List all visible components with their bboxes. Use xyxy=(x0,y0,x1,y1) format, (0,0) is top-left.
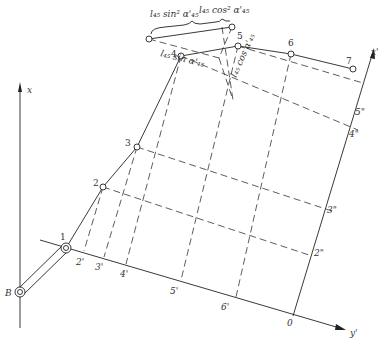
diagram-canvas: x y' x' B 1 2 3 4 5 6 7 2' 3' 4' 5' 6' 0… xyxy=(0,0,386,349)
point-1-label: 1 xyxy=(60,232,66,242)
x-prime-axis xyxy=(293,55,372,316)
formula-sin-squared: l₄₅ sin² α'₄₅ xyxy=(150,9,199,19)
point-3-label: 3 xyxy=(125,138,131,148)
y-prime-axis xyxy=(40,240,343,329)
label-4-prime: 4' xyxy=(119,269,128,279)
point-7-label: 7 xyxy=(346,56,352,66)
point-6 xyxy=(288,51,294,57)
formula-cos: l₄₅ cos α'₄₅ xyxy=(229,32,257,79)
origin-label: 0 xyxy=(287,318,293,328)
construction-left-point xyxy=(146,36,152,42)
y-prime-arrow-icon xyxy=(335,324,346,330)
point-7 xyxy=(350,66,356,72)
label-4-double-prime: 4" xyxy=(348,129,359,139)
formula-sin: l₄₅ sin α'₄₅ xyxy=(160,48,206,69)
point-6-label: 6 xyxy=(288,38,294,48)
mechanism-polyline xyxy=(66,46,353,248)
construction-right-point xyxy=(229,24,235,30)
label-3-prime: 3' xyxy=(95,262,103,272)
label-5-double-prime: 5" xyxy=(355,107,365,117)
point-3 xyxy=(134,144,140,150)
label-3-double-prime: 3" xyxy=(327,205,337,215)
label-6-prime: 6' xyxy=(221,302,229,312)
point-2-label: 2 xyxy=(93,178,99,188)
y-prime-label: y' xyxy=(349,328,358,338)
x-axis-arrow-icon xyxy=(18,82,22,92)
label-2-double-prime: 2" xyxy=(313,248,324,258)
point-b-label: B xyxy=(4,288,12,298)
formula-cos-squared: l₄₅ cos² α'₄₅ xyxy=(199,5,250,15)
point-2 xyxy=(100,184,106,190)
label-2-prime: 2' xyxy=(75,257,84,267)
label-5-prime: 5' xyxy=(170,286,178,296)
point-1 xyxy=(64,246,69,251)
x-axis-label: x xyxy=(27,85,32,95)
point-5-label: 5 xyxy=(237,31,243,41)
point-b-inner xyxy=(18,290,23,295)
x-prime-label: x' xyxy=(371,47,379,57)
construction-segment xyxy=(149,27,232,39)
